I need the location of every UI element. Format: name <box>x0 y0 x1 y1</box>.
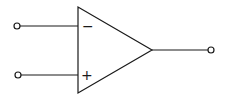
inverting-input-terminal <box>14 23 20 29</box>
non-inverting-input-terminal <box>15 72 21 78</box>
op-amp-diagram: − + <box>0 0 225 99</box>
inverting-sign: − <box>82 18 94 34</box>
output-terminal <box>208 47 214 53</box>
non-inverting-sign: + <box>81 67 93 83</box>
